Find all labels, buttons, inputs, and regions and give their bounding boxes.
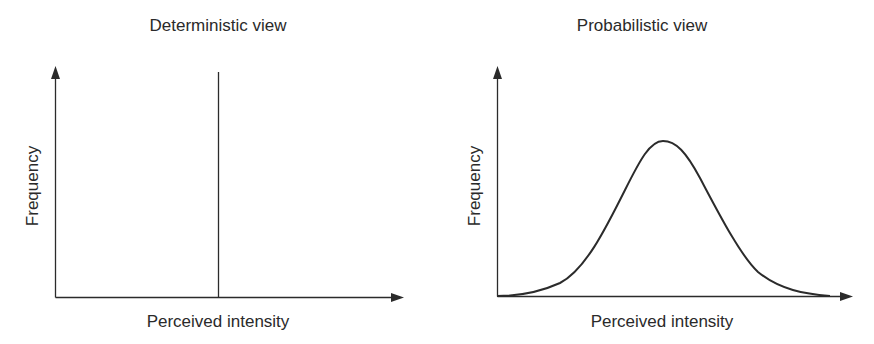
probabilistic-curve — [497, 141, 830, 296]
charts-canvas — [0, 0, 874, 344]
y-axis-arrow-icon — [493, 66, 502, 79]
deterministic-axes — [51, 66, 404, 302]
probabilistic-axes — [493, 66, 853, 301]
x-axis-arrow-icon — [391, 293, 404, 302]
y-axis-arrow-icon — [51, 66, 60, 79]
x-axis-arrow-icon — [840, 292, 853, 301]
